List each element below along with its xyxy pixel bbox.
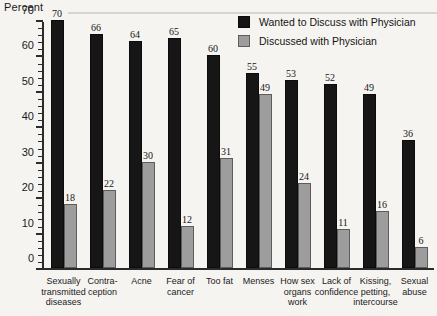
bar-discussed[interactable]: 24 xyxy=(298,183,311,268)
y-tick-major xyxy=(36,91,43,93)
y-tick-minor xyxy=(38,248,43,249)
y-tick-minor xyxy=(38,255,43,256)
bar-value-label: 30 xyxy=(143,150,153,161)
x-axis-category-label: Sexualabuse xyxy=(392,276,437,297)
bar-value-label: 60 xyxy=(208,43,218,54)
bar-value-label: 65 xyxy=(169,26,179,37)
y-tick-minor xyxy=(38,106,43,107)
y-tick-label: 30 xyxy=(22,146,34,158)
y-tick-major xyxy=(36,55,43,57)
y-tick-label: 10 xyxy=(22,217,34,229)
category-label-line: Sexual xyxy=(392,276,437,287)
bar-discussed[interactable]: 6 xyxy=(415,247,428,268)
y-tick-major xyxy=(36,126,43,128)
bar-wanted[interactable]: 53 xyxy=(285,80,298,268)
category-label-line: cancer xyxy=(158,287,203,298)
bar-group: 5324 xyxy=(285,80,311,268)
bar-value-label: 18 xyxy=(65,192,75,203)
y-tick-label: 0 xyxy=(28,252,34,264)
y-tick-minor xyxy=(38,177,43,178)
bar-wanted[interactable]: 49 xyxy=(363,94,376,268)
y-tick-minor xyxy=(38,28,43,29)
bar-wanted[interactable]: 65 xyxy=(168,38,181,268)
bar-wanted[interactable]: 55 xyxy=(246,73,259,268)
y-tick-label: 60 xyxy=(22,39,34,51)
bar-group: 366 xyxy=(402,140,428,268)
y-tick-minor xyxy=(38,262,43,263)
bar-wanted[interactable]: 70 xyxy=(51,20,64,268)
y-tick-minor xyxy=(38,170,43,171)
category-label-line: work xyxy=(275,297,320,308)
bar-value-label: 11 xyxy=(338,217,348,228)
y-tick-minor xyxy=(38,78,43,79)
y-tick-minor xyxy=(38,49,43,50)
bar-discussed[interactable]: 30 xyxy=(142,162,155,268)
y-tick-minor xyxy=(38,156,43,157)
bar-discussed[interactable]: 18 xyxy=(64,204,77,268)
y-tick-major xyxy=(36,233,43,235)
bar-discussed[interactable]: 22 xyxy=(103,190,116,268)
category-label-line: abuse xyxy=(392,287,437,298)
bar-value-label: 12 xyxy=(182,214,192,225)
y-tick-minor xyxy=(38,219,43,220)
y-tick-minor xyxy=(38,99,43,100)
bar-value-label: 16 xyxy=(377,199,387,210)
x-axis-category-labels: SexuallytransmitteddiseasesContra-ceptio… xyxy=(44,276,436,316)
y-tick-minor xyxy=(38,184,43,185)
bar-group: 6430 xyxy=(129,41,155,268)
y-tick-minor xyxy=(38,134,43,135)
bar-wanted[interactable]: 66 xyxy=(90,34,103,268)
bar-group: 4916 xyxy=(363,94,389,268)
bar-wanted[interactable]: 36 xyxy=(402,140,415,268)
y-tick-major xyxy=(36,162,43,164)
bar-value-label: 24 xyxy=(299,171,309,182)
y-tick-label: 20 xyxy=(22,181,34,193)
bar-wanted[interactable]: 64 xyxy=(129,41,142,268)
y-tick-major xyxy=(36,268,43,270)
y-tick-label: 50 xyxy=(22,75,34,87)
y-tick-minor xyxy=(38,191,43,192)
bar-group: 6622 xyxy=(90,34,116,268)
y-tick-major xyxy=(36,197,43,199)
category-label-line: intercourse xyxy=(353,297,398,308)
bar-group: 6512 xyxy=(168,38,194,268)
bar-value-label: 66 xyxy=(91,22,101,33)
bar-group: 5549 xyxy=(246,73,272,268)
bar-value-label: 64 xyxy=(130,29,140,40)
bar-value-label: 49 xyxy=(364,82,374,93)
bar-series-container: 701866226430651260315549532452114916366 xyxy=(44,22,434,268)
bar-wanted[interactable]: 52 xyxy=(324,84,337,268)
bar-group: 7018 xyxy=(51,20,77,268)
y-tick-major xyxy=(36,20,43,22)
header-divider xyxy=(68,12,437,14)
bar-discussed[interactable]: 11 xyxy=(337,229,350,268)
y-tick-minor xyxy=(38,64,43,65)
y-tick-label: 40 xyxy=(22,110,34,122)
y-tick-minor xyxy=(38,212,43,213)
y-tick-minor xyxy=(38,42,43,43)
category-label-line: ception xyxy=(80,287,125,298)
bar-discussed[interactable]: 49 xyxy=(259,94,272,268)
y-tick-minor xyxy=(38,149,43,150)
bar-value-label: 52 xyxy=(325,72,335,83)
bar-value-label: 36 xyxy=(403,128,413,139)
bar-discussed[interactable]: 16 xyxy=(376,211,389,268)
y-tick-label: 70 xyxy=(22,4,34,16)
y-tick-minor xyxy=(38,227,43,228)
y-tick-minor xyxy=(38,120,43,121)
y-tick-minor xyxy=(38,85,43,86)
bar-discussed[interactable]: 12 xyxy=(181,226,194,269)
y-tick-minor xyxy=(38,205,43,206)
y-tick-minor xyxy=(38,71,43,72)
bar-wanted[interactable]: 60 xyxy=(207,55,220,268)
bar-value-label: 22 xyxy=(104,178,114,189)
y-tick-minor xyxy=(38,35,43,36)
bar-value-label: 70 xyxy=(52,8,62,19)
chart-figure: Percent Wanted to Discuss with Physician… xyxy=(0,0,437,316)
bar-value-label: 31 xyxy=(221,146,231,157)
bar-group: 6031 xyxy=(207,55,233,268)
bar-value-label: 6 xyxy=(419,235,424,246)
bar-value-label: 53 xyxy=(286,68,296,79)
y-tick-minor xyxy=(38,241,43,242)
bar-discussed[interactable]: 31 xyxy=(220,158,233,268)
